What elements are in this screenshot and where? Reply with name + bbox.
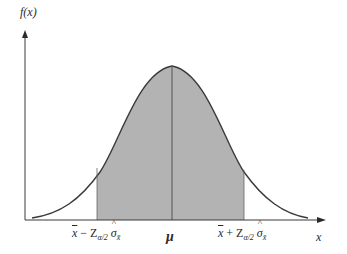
normal-distribution-diagram: [0, 0, 347, 254]
y-axis-label: f(x): [20, 5, 37, 20]
mean-label: μ: [166, 229, 174, 245]
sigma-hat: σ: [257, 226, 263, 241]
x-axis-label: x: [316, 230, 321, 245]
sigma-subscript: x̄: [117, 233, 121, 242]
subscript: α/2: [243, 233, 253, 242]
lower-bound-label: x − Zα/2 σx̄: [72, 226, 120, 242]
y-axis-arrow-icon: [22, 30, 28, 38]
sigma-hat: σ: [111, 226, 117, 241]
x-axis-arrow-icon: [317, 217, 326, 223]
operator: − Z: [77, 226, 97, 240]
operator: + Z: [223, 226, 243, 240]
sigma-subscript: x̄: [263, 233, 267, 242]
subscript: α/2: [97, 233, 107, 242]
upper-bound-label: x + Zα/2 σx̄: [218, 226, 266, 242]
